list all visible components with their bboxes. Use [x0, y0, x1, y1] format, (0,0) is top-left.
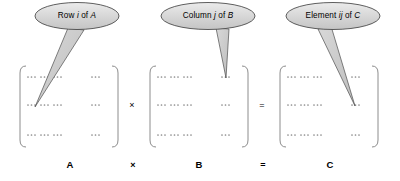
callout-element-c-label: Element ij of C: [288, 12, 378, 20]
matrix-a-right-bracket: [112, 66, 118, 147]
callout-row-a-middle: of: [79, 11, 91, 20]
callout-column-b-tail: [216, 28, 229, 78]
matrix-c-row-2: [287, 104, 360, 106]
bottom-equals-operator: =: [254, 161, 272, 170]
matrix-b-row-2: [157, 104, 230, 106]
callout-element-c-prefix: Element: [306, 11, 339, 20]
matrix-a-row-3: [27, 134, 100, 136]
matrix-a-label: A: [58, 160, 82, 170]
matrix-a: [20, 66, 118, 147]
matrix-b-left-bracket: [150, 66, 156, 147]
callout-row-a-prefix: Row: [58, 11, 77, 20]
matrix-c-left-bracket: [280, 66, 286, 147]
multiply-operator: ×: [125, 101, 139, 110]
matrix-b-right-bracket: [242, 66, 248, 147]
callout-element-c-middle: of: [343, 11, 355, 20]
matrix-c-row-3: [287, 134, 360, 136]
equals-operator: =: [255, 101, 269, 110]
callout-row-a-matrix: A: [91, 11, 97, 20]
callout-column-b-label: Column j of B: [163, 12, 253, 20]
callout-column-b-middle: of: [216, 11, 228, 20]
callout-element-c-tail: [318, 26, 355, 106]
callout-column-b-matrix: B: [228, 11, 234, 20]
figure-graphics-layer: [0, 0, 400, 181]
matrix-b-label: B: [187, 160, 211, 170]
callout-element-c-matrix: C: [354, 11, 360, 20]
matrix-b-row-1: [157, 76, 230, 78]
matrix-b-row-3: [157, 134, 230, 136]
bottom-multiply-operator: ×: [124, 161, 142, 170]
matrix-multiplication-figure: Row i of A Column j of B Element ij of C…: [0, 0, 400, 181]
matrix-c-row-1: [287, 76, 360, 78]
matrix-a-row-2: [27, 104, 100, 106]
matrix-c-label: C: [318, 160, 342, 170]
matrix-a-row-1: [27, 76, 100, 78]
callout-row-a-tail: [35, 28, 84, 107]
matrix-b: [150, 66, 248, 147]
callout-row-a-label: Row i of A: [37, 12, 117, 20]
matrix-c-right-bracket: [372, 66, 378, 147]
matrix-a-left-bracket: [20, 66, 26, 147]
callout-column-b-prefix: Column: [183, 11, 214, 20]
matrix-c: [280, 66, 378, 147]
